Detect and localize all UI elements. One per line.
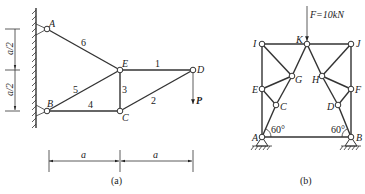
dim-label-a2-bottom: a/2 xyxy=(4,83,15,96)
node-label-c: C xyxy=(122,112,129,123)
node-label-e-b: E xyxy=(251,84,258,95)
member-label-1: 1 xyxy=(155,58,160,69)
dim-label-a2-top: a/2 xyxy=(4,42,15,55)
node-c-b xyxy=(273,102,279,108)
node-h xyxy=(319,73,325,79)
node-label-b: B xyxy=(47,98,53,109)
angle-label-left: 60° xyxy=(271,124,285,135)
figure-b: 60° 60° F=10kN xyxy=(251,6,362,187)
node-label-i: I xyxy=(252,38,257,49)
caption-a: (a) xyxy=(111,175,122,187)
load-label-p: P xyxy=(196,95,203,106)
member-6 xyxy=(47,29,120,70)
member-label-6: 6 xyxy=(81,37,86,48)
node-d-b xyxy=(335,102,341,108)
member-ig xyxy=(262,44,292,76)
member-gk xyxy=(292,44,307,76)
node-label-k: K xyxy=(295,34,304,45)
node-label-b-b: B xyxy=(356,132,362,143)
node-label-f: F xyxy=(354,84,362,95)
member-2 xyxy=(120,70,193,111)
figure-a: 6 5 4 3 1 2 P A B E C D a/2 a/2 xyxy=(4,8,205,187)
member-hk xyxy=(307,44,322,76)
node-i xyxy=(259,41,265,47)
vertical-dimension: a/2 a/2 xyxy=(4,29,20,111)
member-label-2: 2 xyxy=(151,95,156,106)
angle-label-right: 60° xyxy=(331,124,345,135)
node-e-b xyxy=(259,86,265,92)
node-k xyxy=(304,41,310,47)
node-a-b xyxy=(259,134,265,140)
node-label-d: D xyxy=(196,64,205,75)
node-label-g: G xyxy=(295,74,302,85)
node-f xyxy=(348,86,354,92)
node-label-c-b: C xyxy=(280,101,287,112)
caption-b: (b) xyxy=(300,175,312,187)
node-label-a-b: A xyxy=(251,132,259,143)
member-label-4: 4 xyxy=(88,99,93,110)
member-label-5: 5 xyxy=(73,84,78,95)
node-d xyxy=(190,67,196,73)
node-label-j: J xyxy=(356,38,361,49)
member-label-3: 3 xyxy=(122,84,127,95)
node-label-d-b: D xyxy=(326,101,335,112)
node-b-b xyxy=(348,134,354,140)
truss-diagrams: 6 5 4 3 1 2 P A B E C D a/2 a/2 xyxy=(0,0,365,194)
load-label-f: F=10kN xyxy=(309,9,345,20)
node-label-a: A xyxy=(48,18,56,29)
node-b xyxy=(44,108,50,114)
dim-label-a-left: a xyxy=(81,149,86,160)
node-j xyxy=(348,41,354,47)
node-g xyxy=(289,73,295,79)
dim-label-a-right: a xyxy=(153,149,158,160)
member-eg xyxy=(262,76,292,89)
node-label-e: E xyxy=(121,58,128,69)
member-5 xyxy=(47,70,120,111)
node-label-h: H xyxy=(311,74,320,85)
horizontal-dimension: a a xyxy=(49,149,193,172)
member-jh xyxy=(322,44,351,76)
